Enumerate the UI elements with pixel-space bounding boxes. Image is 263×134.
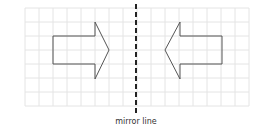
mirror-line-label: mirror line	[96, 117, 176, 126]
reflection-diagram	[0, 0, 263, 134]
